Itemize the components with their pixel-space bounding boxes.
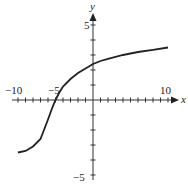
x-axis-label: x	[180, 93, 186, 105]
x-tick-label-10: 10	[160, 84, 172, 96]
y-tick-label-neg5: −5	[73, 171, 85, 183]
x-tick-label-neg10: −10	[5, 84, 23, 96]
x-axis-arrow-icon	[171, 97, 179, 104]
y-axis-arrow-icon	[90, 13, 97, 21]
y-tick-label-5: 5	[84, 19, 90, 31]
chart: −10 −5 10 5 −5 x y	[0, 0, 188, 186]
y-axis-label: y	[89, 0, 95, 12]
